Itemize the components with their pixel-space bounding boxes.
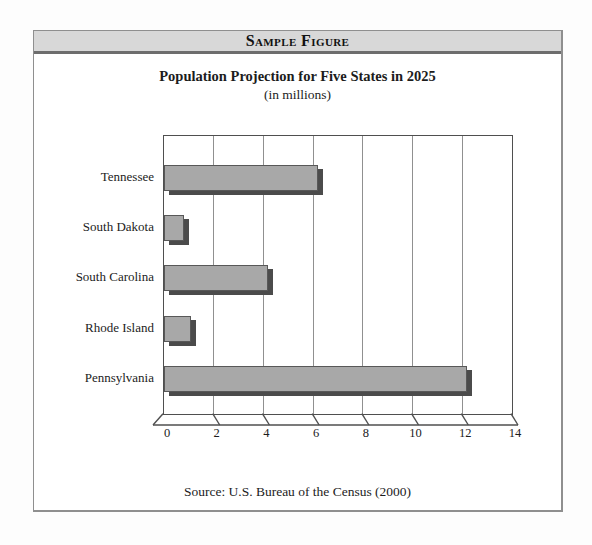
axis-tick-4 xyxy=(262,414,269,425)
bar-tennessee xyxy=(164,165,318,191)
axis-tick-8 xyxy=(362,414,369,425)
figure-header-label: Sample Figure xyxy=(246,32,350,49)
x-tick-label-14: 14 xyxy=(500,426,530,441)
x-tick-label-0: 0 xyxy=(152,426,182,441)
axis-tick-12 xyxy=(461,414,468,425)
plot-area xyxy=(163,135,513,415)
axis-tick-10 xyxy=(412,414,419,425)
chart-subtitle: (in millions) xyxy=(34,87,561,103)
axis-base-right-slant xyxy=(511,414,518,425)
bar-south-carolina xyxy=(164,265,268,291)
x-tick-label-6: 6 xyxy=(301,426,331,441)
axis-tick-6 xyxy=(312,414,319,425)
figure-panel: Sample Figure Population Projection for … xyxy=(33,30,563,512)
source-text: Source: U.S. Bureau of the Census (2000) xyxy=(34,484,561,500)
axis-tick-2 xyxy=(213,414,220,425)
x-tick-label-2: 2 xyxy=(202,426,232,441)
x-tick-label-12: 12 xyxy=(450,426,480,441)
figure-header: Sample Figure xyxy=(34,31,561,54)
x-tick-label-4: 4 xyxy=(251,426,281,441)
category-label-south-dakota: South Dakota xyxy=(34,219,154,235)
chart-title: Population Projection for Five States in… xyxy=(34,68,561,85)
bar-south-dakota xyxy=(164,215,184,241)
category-label-rhode-island: Rhode Island xyxy=(34,320,154,336)
axis-base-left-flare xyxy=(153,414,163,425)
category-label-pennsylvania: Pennsylvania xyxy=(34,370,154,386)
category-label-tennessee: Tennessee xyxy=(34,169,154,185)
bar-rhode-island xyxy=(164,316,191,342)
bar-chart: Population Projection for Five States in… xyxy=(34,54,561,510)
x-tick-label-10: 10 xyxy=(401,426,431,441)
bar-pennsylvania xyxy=(164,366,467,392)
x-tick-label-8: 8 xyxy=(351,426,381,441)
page: { "figure": { "header": { "label": "Samp… xyxy=(0,0,592,545)
category-label-south-carolina: South Carolina xyxy=(34,269,154,285)
